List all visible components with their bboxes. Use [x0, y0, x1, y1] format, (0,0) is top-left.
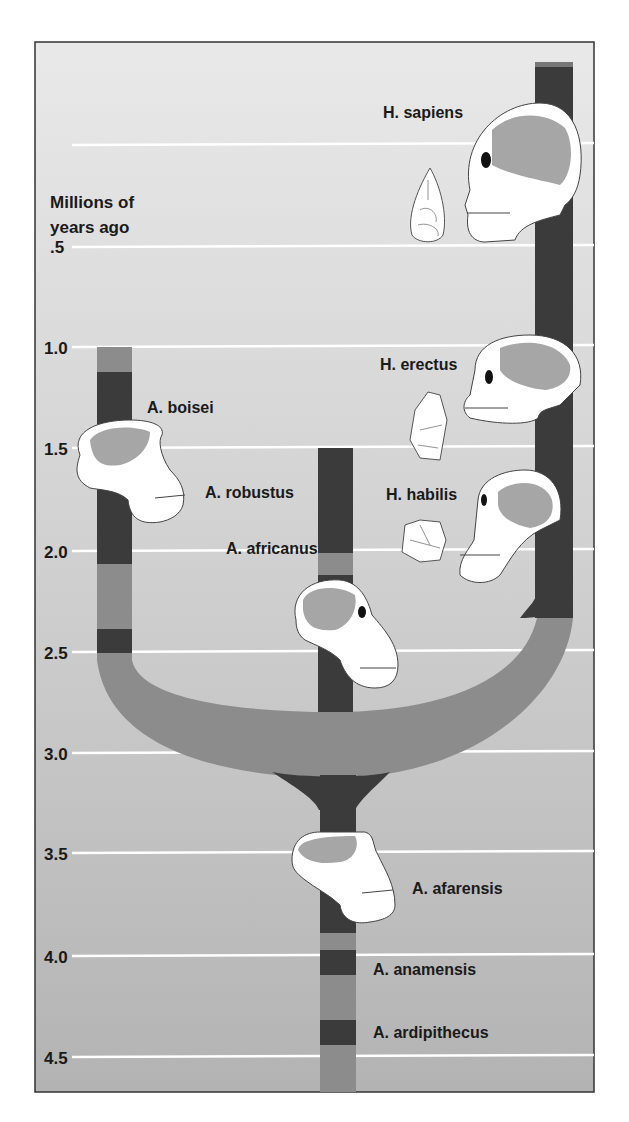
chopper-tool-icon: [402, 520, 446, 562]
lineage-trunk: [320, 775, 356, 1092]
tick-4-0: 4.0: [44, 948, 68, 967]
tick-1-0: 1.0: [44, 339, 68, 358]
tick-3-5: 3.5: [44, 845, 68, 864]
label-a-anamensis: A. anamensis: [373, 961, 476, 978]
tick-1-5: 1.5: [44, 440, 68, 459]
axis-title-line1: Millions of: [50, 193, 134, 212]
lineage-boisei: [97, 347, 132, 653]
label-a-africanus: A. africanus: [226, 540, 318, 557]
tick-2-0: 2.0: [44, 543, 68, 562]
tick-2-5: 2.5: [44, 644, 68, 663]
tick-3-0: 3.0: [44, 745, 68, 764]
label-a-robustus: A. robustus: [205, 484, 294, 501]
label-h-sapiens: H. sapiens: [383, 104, 463, 121]
label-a-boisei: A. boisei: [147, 399, 214, 416]
axis-title-line2: years ago: [50, 218, 129, 237]
tick-4-5: 4.5: [44, 1049, 68, 1068]
label-h-erectus: H. erectus: [380, 356, 457, 373]
label-a-afarensis: A. afarensis: [412, 880, 503, 897]
hominid-evolution-diagram: Millions of years ago .5 1.0 1.5 2.0 2.5…: [0, 0, 629, 1122]
tick-0-5: .5: [50, 238, 64, 257]
label-h-habilis: H. habilis: [386, 486, 457, 503]
label-a-ardipithecus: A. ardipithecus: [373, 1024, 489, 1041]
